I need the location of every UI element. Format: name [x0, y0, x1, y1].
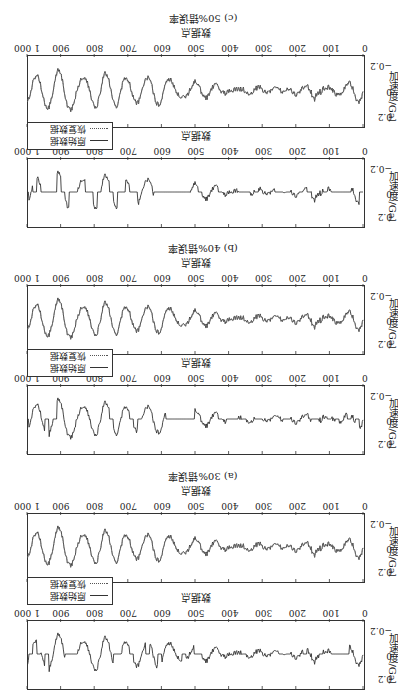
x-tick-label: 500 — [187, 43, 204, 53]
x-tick-label: 200 — [289, 146, 306, 156]
x-tick-label: 800 — [86, 273, 103, 283]
x-tick-label: 400 — [221, 501, 238, 511]
x-tick-label: 500 — [187, 608, 204, 618]
legend: 原始数据 恢复数据 — [27, 577, 113, 605]
x-tick-label: 600 — [154, 146, 171, 156]
legend-item-recovered: 恢复数据 — [50, 350, 108, 362]
plot-c-recovered — [27, 55, 365, 128]
signal-plot — [26, 284, 364, 354]
signal-plot — [26, 619, 364, 689]
x-tick-label: 100 — [323, 273, 340, 283]
x-tick-label: 200 — [289, 273, 306, 283]
x-tick-label: 500 — [187, 146, 204, 156]
x-tick-label: 200 — [289, 501, 306, 511]
x-tick-label: 700 — [120, 273, 137, 283]
x-tick-label: 0 — [362, 146, 368, 156]
x-axis-label: 数据点 — [27, 26, 365, 41]
y-tick-label: −0.2 — [370, 626, 392, 636]
y-tick-label: 0.2 — [378, 439, 392, 449]
dotted-line-swatch — [90, 355, 108, 356]
x-tick-labels: 01002003004005006007008009001 000 — [27, 41, 365, 53]
legend-item-original: 原始数据 — [50, 590, 108, 602]
y-tick-label: −0.2 — [370, 291, 392, 301]
caption-c: (c) 50%错误率 — [0, 12, 406, 27]
solid-line-swatch — [90, 140, 108, 141]
plot-a-damaged — [27, 620, 365, 690]
y-tick-label: 0.2 — [378, 567, 392, 577]
x-tick-label: 700 — [120, 43, 137, 53]
y-tick-label: 0.2 — [378, 674, 392, 684]
x-tick-label: 800 — [86, 608, 103, 618]
x-tick-label: 100 — [323, 373, 340, 383]
legend-item-recovered: 恢复数据 — [50, 123, 108, 135]
y-tick-label: 0 — [386, 651, 392, 661]
x-tick-label: 100 — [323, 146, 340, 156]
x-tick-label: 0 — [362, 43, 368, 53]
x-tick-label: 300 — [255, 146, 272, 156]
x-tick-label: 500 — [187, 273, 204, 283]
x-tick-label: 100 — [323, 43, 340, 53]
x-axis-label: 数据点 — [27, 484, 365, 499]
y-tick-label: 0 — [386, 416, 392, 426]
dotted-line-swatch — [90, 583, 108, 584]
x-tick-label: 400 — [221, 373, 238, 383]
legend: 原始数据 恢复数据 — [27, 122, 113, 150]
figure-rotated: 加速度/Gal0.20−0.20100200300400500600700800… — [0, 0, 406, 695]
signal-plot — [26, 54, 364, 127]
legend-item-original: 原始数据 — [50, 362, 108, 374]
legend-item-recovered: 恢复数据 — [50, 578, 108, 590]
x-tick-label: 700 — [120, 146, 137, 156]
x-tick-label: 600 — [154, 373, 171, 383]
x-tick-labels: 01002003004005006007008009001 000 — [27, 606, 365, 618]
dotted-line-swatch — [90, 128, 108, 129]
x-tick-label: 300 — [255, 608, 272, 618]
x-tick-labels: 01002003004005006007008009001 000 — [27, 271, 365, 283]
x-tick-label: 600 — [154, 273, 171, 283]
y-tick-label: −0.2 — [370, 519, 392, 529]
legend-label: 恢复数据 — [50, 351, 86, 361]
legend-label: 原始数据 — [50, 591, 86, 601]
x-tick-label: 700 — [120, 608, 137, 618]
y-tick-label: −0.2 — [370, 164, 392, 174]
x-tick-label: 300 — [255, 373, 272, 383]
x-axis-label: 数据点 — [27, 256, 365, 271]
x-tick-label: 700 — [120, 373, 137, 383]
y-tick-label: 0 — [386, 88, 392, 98]
y-tick-label: 0.2 — [378, 212, 392, 222]
caption-a: (a) 30%错误率 — [0, 470, 406, 485]
x-tick-label: 600 — [154, 608, 171, 618]
x-tick-label: 900 — [52, 273, 69, 283]
x-tick-label: 400 — [221, 608, 238, 618]
signal-plot — [26, 512, 364, 582]
x-tick-label: 0 — [362, 373, 368, 383]
x-tick-label: 600 — [154, 43, 171, 53]
x-tick-label: 0 — [362, 608, 368, 618]
y-tick-label: 0 — [386, 544, 392, 554]
legend-label: 恢复数据 — [50, 124, 86, 134]
x-tick-label: 0 — [362, 273, 368, 283]
y-tick-label: 0.2 — [378, 112, 392, 122]
x-tick-label: 0 — [362, 501, 368, 511]
signal-plot — [26, 157, 364, 227]
plot-b-recovered — [27, 285, 365, 355]
legend-item-original: 原始数据 — [50, 135, 108, 147]
x-tick-label: 1 000 — [14, 501, 40, 511]
x-tick-label: 800 — [86, 501, 103, 511]
x-tick-label: 900 — [52, 501, 69, 511]
x-tick-label: 200 — [289, 373, 306, 383]
x-tick-label: 1 000 — [14, 43, 40, 53]
x-tick-label: 700 — [120, 501, 137, 511]
x-tick-label: 300 — [255, 43, 272, 53]
plot-a-recovered — [27, 513, 365, 583]
legend-label: 恢复数据 — [50, 579, 86, 589]
legend-label: 原始数据 — [50, 363, 86, 373]
x-tick-label: 800 — [86, 43, 103, 53]
solid-line-swatch — [90, 595, 108, 596]
x-tick-label: 500 — [187, 373, 204, 383]
x-tick-label: 100 — [323, 501, 340, 511]
y-tick-label: 0 — [386, 189, 392, 199]
y-tick-label: 0 — [386, 316, 392, 326]
y-tick-label: −0.2 — [370, 391, 392, 401]
y-tick-label: −0.2 — [370, 61, 392, 71]
legend-label: 原始数据 — [50, 136, 86, 146]
